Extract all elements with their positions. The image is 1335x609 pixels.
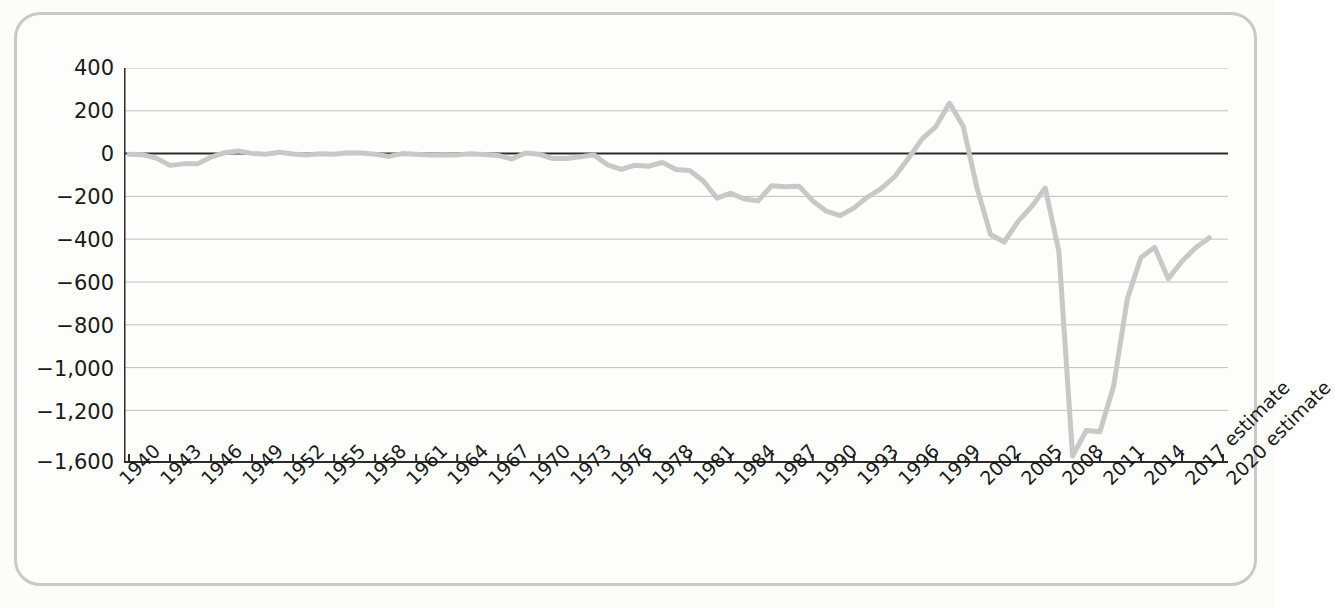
x-tick-label: 1943 [157, 441, 205, 489]
x-tick-label: 2014 [1141, 441, 1189, 489]
x-tick-label: 1978 [649, 441, 697, 489]
x-tick-label: 2008 [1059, 441, 1107, 489]
x-tick-label: 1970 [526, 441, 574, 489]
x-tick-label: 1952 [280, 441, 328, 489]
x-tick-label: 1940 [116, 441, 164, 489]
x-tick-label: 1967 [485, 441, 533, 489]
x-tick-label: 1973 [567, 441, 615, 489]
x-tick-label: 2002 [977, 441, 1025, 489]
x-tick-label: 1996 [895, 441, 943, 489]
x-tick-label: 1987 [772, 441, 820, 489]
x-tick-label: 1964 [444, 441, 492, 489]
x-tick-label: 1981 [690, 441, 738, 489]
x-tick-label: 1946 [198, 441, 246, 489]
x-tick-label: 2005 [1018, 441, 1066, 489]
x-tick-label: 1993 [854, 441, 902, 489]
x-tick-label: 1961 [403, 441, 451, 489]
x-tick-label: 1984 [731, 441, 779, 489]
x-tick-label: 1990 [813, 441, 861, 489]
x-tick-label: 1958 [362, 441, 410, 489]
x-tick-label: 1999 [936, 441, 984, 489]
x-tick-label: 1976 [608, 441, 656, 489]
x-tick-label: 2011 [1100, 441, 1148, 489]
x-tick-label: 1955 [321, 441, 369, 489]
x-tick-label: 1949 [239, 441, 287, 489]
